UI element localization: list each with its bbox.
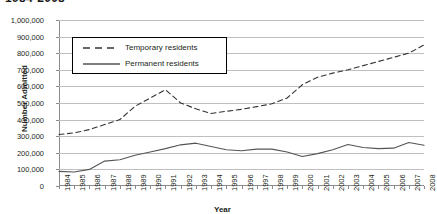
x-tick-mark bbox=[424, 186, 425, 189]
legend-item-temporary: Temporary residents bbox=[73, 40, 226, 55]
x-tick-mark bbox=[363, 186, 364, 189]
x-tick-mark bbox=[348, 186, 349, 189]
x-tick-mark bbox=[409, 186, 410, 189]
legend-label-permanent: Permanent residents bbox=[125, 59, 199, 68]
y-tick-label: 400,000 bbox=[0, 116, 44, 125]
y-tick-label: 800,000 bbox=[0, 49, 44, 58]
y-tick-label: 200,000 bbox=[0, 149, 44, 158]
x-tick-mark bbox=[150, 186, 151, 189]
x-tick-mark bbox=[120, 186, 121, 189]
x-tick-mark bbox=[196, 186, 197, 189]
x-tick-mark bbox=[394, 186, 395, 189]
y-tick-label: 700,000 bbox=[0, 66, 44, 75]
x-tick-mark bbox=[181, 186, 182, 189]
y-tick-label: 600,000 bbox=[0, 82, 44, 91]
y-tick-label: 300,000 bbox=[0, 132, 44, 141]
x-tick-mark bbox=[287, 186, 288, 189]
x-tick-mark bbox=[59, 186, 60, 189]
x-tick-mark bbox=[257, 186, 258, 189]
series-line-permanent bbox=[59, 143, 424, 173]
dashed-line-icon bbox=[73, 42, 125, 53]
x-tick-mark bbox=[302, 186, 303, 189]
x-tick-mark bbox=[105, 186, 106, 189]
x-tick-mark bbox=[89, 186, 90, 189]
chart-legend: Temporary residents Permanent residents bbox=[72, 37, 227, 74]
x-tick-mark bbox=[211, 186, 212, 189]
y-tick-label: 500,000 bbox=[0, 99, 44, 108]
chart-title: 1984-2008 bbox=[5, 0, 65, 5]
x-tick-mark bbox=[242, 186, 243, 189]
legend-label-temporary: Temporary residents bbox=[125, 43, 197, 52]
x-tick-label: 2008 bbox=[428, 174, 437, 191]
x-tick-mark bbox=[165, 186, 166, 189]
x-tick-mark bbox=[333, 186, 334, 189]
x-tick-mark bbox=[378, 186, 379, 189]
y-tick-label: 0 bbox=[0, 182, 44, 191]
solid-line-icon bbox=[73, 58, 125, 69]
legend-item-permanent: Permanent residents bbox=[73, 56, 226, 71]
x-axis-title: Year bbox=[214, 205, 231, 214]
y-tick-label: 1,000,000 bbox=[0, 16, 44, 25]
x-tick-mark bbox=[318, 186, 319, 189]
x-tick-mark bbox=[226, 186, 227, 189]
x-tick-mark bbox=[135, 186, 136, 189]
x-tick-mark bbox=[74, 186, 75, 189]
y-tick-label: 900,000 bbox=[0, 33, 44, 42]
y-tick-label: 100,000 bbox=[0, 165, 44, 174]
x-tick-mark bbox=[272, 186, 273, 189]
